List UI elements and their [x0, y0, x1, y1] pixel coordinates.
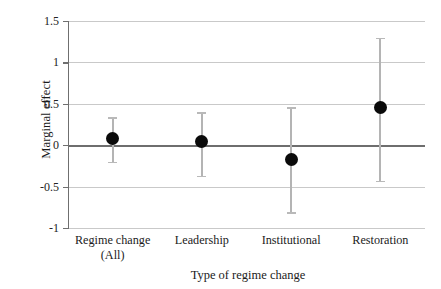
ci-lower-cap	[287, 212, 296, 214]
x-tick-label-line: Leadership	[175, 233, 229, 248]
x-tick-label: Leadership	[175, 233, 229, 248]
zero-reference-line	[68, 145, 425, 146]
x-tick-label-line: Regime change	[75, 233, 150, 248]
x-tick-label: Restoration	[352, 233, 408, 248]
ci-upper-cap	[376, 38, 385, 40]
y-tick-mark	[63, 145, 69, 146]
data-point-marker	[374, 101, 387, 114]
gridline	[68, 21, 425, 22]
ci-upper-cap	[108, 117, 117, 119]
gridline	[68, 104, 425, 105]
y-tick-label: 0	[53, 138, 59, 153]
ci-lower-cap	[376, 181, 385, 183]
data-point-marker	[285, 153, 298, 166]
y-tick-label: 1.5	[44, 14, 59, 29]
y-tick-mark	[63, 62, 69, 63]
x-tick-label-line: Institutional	[262, 233, 321, 248]
x-tick-label: Institutional	[262, 233, 321, 248]
ci-lower-cap	[197, 176, 206, 178]
y-tick-label: 1	[53, 55, 59, 70]
y-tick-mark	[63, 21, 69, 22]
x-tick-label-line: (All)	[75, 248, 150, 263]
y-tick-label: 0.5	[44, 96, 59, 111]
y-tick-label: -1	[49, 221, 59, 236]
gridline	[68, 187, 425, 188]
x-tick-label-line: Restoration	[352, 233, 408, 248]
x-axis-title: Type of regime change	[68, 268, 428, 283]
ci-upper-cap	[287, 107, 296, 109]
y-tick-mark	[63, 228, 69, 229]
ci-upper-cap	[197, 112, 206, 114]
data-point-marker	[106, 132, 119, 145]
x-tick-label: Regime change(All)	[75, 233, 150, 263]
data-point-marker	[195, 135, 208, 148]
plot-area: 1.510.50-0.5-1	[68, 21, 425, 228]
y-tick-mark	[63, 104, 69, 105]
y-tick-label: -0.5	[40, 179, 59, 194]
ci-lower-cap	[108, 162, 117, 164]
y-tick-mark	[63, 187, 69, 188]
marginal-effect-chart: Marginal effect Type of regime change 1.…	[0, 0, 441, 289]
gridline	[68, 228, 425, 229]
gridline	[68, 62, 425, 63]
